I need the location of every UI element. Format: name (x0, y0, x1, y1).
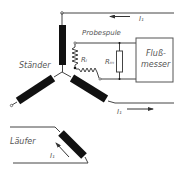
flux-meter-label-line2: messer (141, 60, 171, 69)
flux-meter-box: Fluß- messer (136, 38, 173, 82)
internal-resistance-label: Rᵢ (81, 56, 88, 64)
stator-label: Ständer (19, 61, 51, 70)
current-label-top: I₁ (139, 15, 144, 23)
probe-coil-label: Probespule (82, 29, 121, 37)
stator-rotor-flux-measurement-diagram: I₁ I₁ Ständer Probespule Rᵢ (0, 0, 186, 179)
measuring-resistance-label: Rₘ (105, 58, 115, 66)
rotor-label: Läufer (10, 137, 36, 146)
stator-winding-right (62, 72, 115, 103)
current-arrow-rotor-icon (56, 143, 69, 157)
measuring-resistor (117, 42, 123, 80)
stator-winding-left (10, 72, 62, 107)
top-supply-line (61, 12, 174, 15)
current-label-right: I₁ (117, 108, 122, 116)
flux-meter-label-line1: Fluß- (146, 49, 166, 58)
stator-winding-top (59, 25, 66, 65)
current-label-rotor: I₁ (50, 152, 55, 160)
